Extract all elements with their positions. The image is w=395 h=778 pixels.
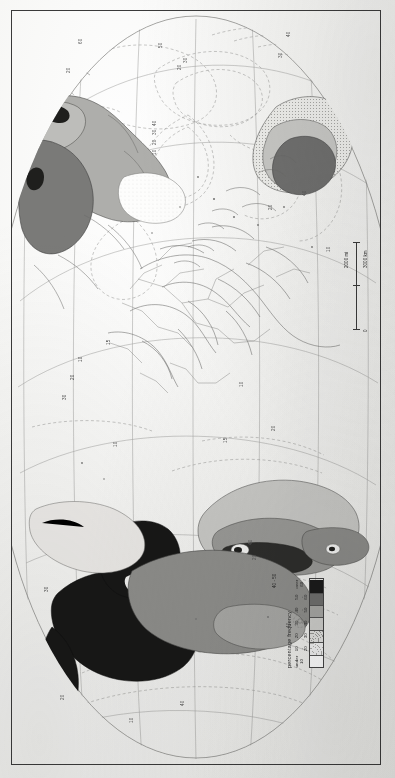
scale-km-label: 3000 km <box>363 250 368 268</box>
scale-bar: 0 2000 mi 3000 km <box>352 330 392 434</box>
graticule-label: 30 <box>152 129 157 135</box>
graticule-label: 60 <box>78 38 83 44</box>
legend-label: over 60 <box>295 578 309 591</box>
legend-label: 50 - 60 <box>295 591 309 604</box>
legend-label: under 10 <box>295 655 309 668</box>
region-nz <box>338 52 363 100</box>
graticule-label: 50 <box>158 42 163 48</box>
graticule-label: 10 <box>152 149 157 155</box>
country-borders <box>110 243 310 393</box>
legend-labels: under 10 10 - 20 20 - 30 30 - 40 40 - 50… <box>295 578 309 668</box>
legend-label: 40 - 50 <box>295 604 309 617</box>
legend-swatches <box>309 578 324 668</box>
graticule-label: 20 <box>271 425 276 431</box>
graticule-label: 40 <box>248 539 253 545</box>
legend-swatch <box>310 655 323 667</box>
legend: percentage frequency under 10 10 - 20 20… <box>286 668 382 768</box>
legend-swatch <box>310 593 323 605</box>
graticule-label: 10 <box>78 356 83 362</box>
inset-annotation-label: 40 - 50 <box>272 574 277 588</box>
graticule-label: 15 <box>223 437 228 443</box>
region-pale-lower-left <box>29 502 145 573</box>
map-canvas <box>12 11 380 764</box>
scale-zero-label: 0 <box>363 329 368 332</box>
legend-swatch <box>310 605 323 617</box>
legend-swatch <box>310 630 323 642</box>
graticule-label: 40 <box>180 700 185 706</box>
graticule-label: 20 <box>268 204 273 210</box>
graticule-label: 30 <box>278 52 283 58</box>
graticule-label: 20 <box>177 64 182 70</box>
region-top-right <box>253 97 354 195</box>
legend-swatch <box>310 642 323 654</box>
world-map-svg <box>12 11 380 764</box>
graticule-label: 40 <box>286 31 291 37</box>
legend-label: 20 - 30 <box>295 629 309 642</box>
graticule-label: 40 <box>152 120 157 126</box>
graticule-label: 10 <box>326 246 331 252</box>
legend-swatch <box>310 580 323 592</box>
graticule-label: 30 <box>44 586 49 592</box>
graticule-label: 30 <box>183 57 188 63</box>
graticule-label: 20 <box>152 139 157 145</box>
legend-swatch <box>310 617 323 629</box>
graticule-label: 10 <box>129 717 134 723</box>
graticule-label: 20 <box>70 374 75 380</box>
graticule-label: 20 <box>252 554 257 560</box>
legend-title: percentage frequency <box>286 578 292 668</box>
graticule-label: 20 <box>60 694 65 700</box>
legend-label: 10 - 20 <box>295 642 309 655</box>
scale-miles-label: 2000 mi <box>344 252 349 268</box>
graticule-label: 30 <box>62 394 67 400</box>
graticule-label: 10 <box>239 381 244 387</box>
graticule-label: 20 <box>66 67 71 73</box>
scale-bar-line <box>352 242 362 330</box>
graticule-label: 10 <box>113 441 118 447</box>
map-page: 60 50 30 20 20 40 30 40 30 20 10 40 20 1… <box>0 0 395 778</box>
graticule-label: 40 <box>302 190 307 196</box>
legend-label: 30 - 40 <box>295 616 309 629</box>
graticule-label: 15 <box>106 339 111 345</box>
